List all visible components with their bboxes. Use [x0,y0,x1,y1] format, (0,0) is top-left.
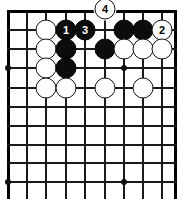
go-board-diagram: 1 3 2 4 [0,0,183,199]
black-stone-move-1: 1 [56,20,77,41]
black-stone-move-3: 3 [75,20,96,41]
star-point [5,65,11,71]
white-stone [36,78,57,99]
white-stone [114,39,135,60]
board-line-vertical [7,10,10,199]
white-stone-move-2: 2 [152,20,173,41]
board-edge-right [174,10,177,199]
stone-label: 1 [63,24,69,35]
white-stone [36,58,57,79]
stone-label: 2 [159,24,165,35]
white-stone [133,39,154,60]
white-stone [36,20,57,41]
board-line-horizontal [7,67,177,69]
board-line-horizontal [7,181,177,183]
stone-label: 4 [102,3,108,14]
board-line-vertical [26,10,28,199]
black-stone [114,20,135,41]
board-edge-top [7,10,177,13]
black-stone [95,39,116,60]
white-stone [152,39,173,60]
black-stone [56,58,77,79]
board-line-horizontal [7,125,177,127]
black-stone [56,39,77,60]
black-stone [133,20,154,41]
white-stone-move-4: 4 [95,0,116,20]
star-point [5,179,11,185]
board-line-horizontal [7,106,177,108]
star-point [121,179,127,185]
white-stone [36,39,57,60]
white-stone [133,78,154,99]
stone-label: 3 [82,24,88,35]
white-stone [95,78,116,99]
white-stone [56,78,77,99]
board-line-horizontal [7,162,177,164]
star-point [121,65,127,71]
board-line-horizontal [7,144,177,146]
